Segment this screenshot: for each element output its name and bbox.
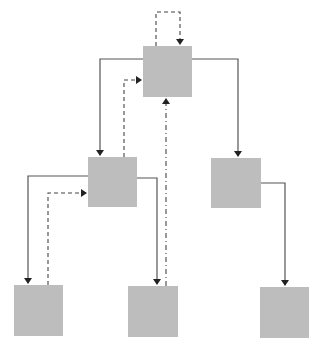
edge-mid-left-to-leaf-left — [28, 176, 88, 283]
node-leaf-left — [14, 285, 63, 336]
node-leaf-middle — [128, 286, 178, 337]
edge-root-self-loop — [156, 12, 180, 46]
node-mid-left — [88, 157, 137, 207]
edge-mid-right-to-leaf-right — [261, 183, 285, 285]
node-root — [143, 46, 192, 97]
edge-root-to-mid-right — [192, 59, 238, 156]
node-leaf-right — [260, 287, 309, 338]
edge-root-to-mid-left — [100, 59, 143, 155]
edge-mid-left-to-leaf-middle — [137, 178, 157, 284]
node-mid-right — [211, 158, 261, 208]
tree-diagram — [0, 0, 318, 350]
edge-leaf-left-to-mid-left — [48, 193, 86, 285]
edge-mid-left-to-root — [124, 80, 141, 157]
